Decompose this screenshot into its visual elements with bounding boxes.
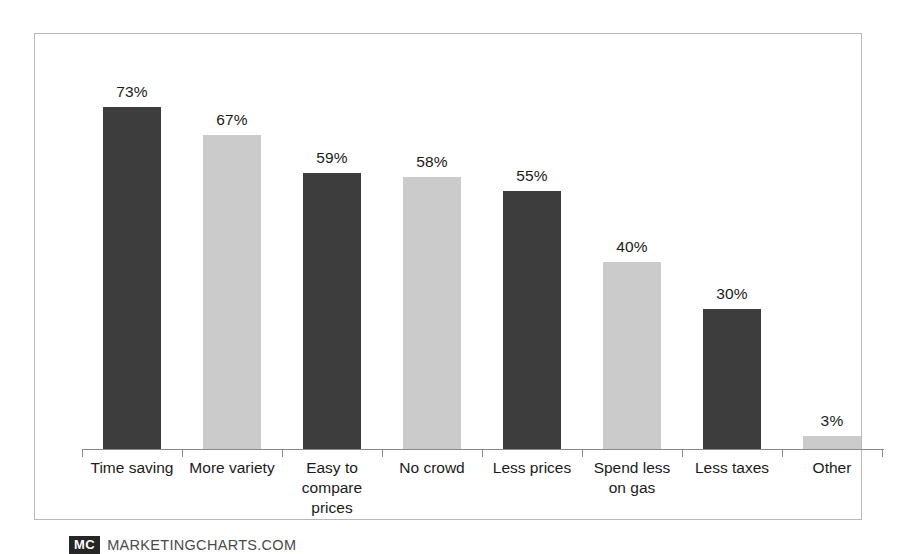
axis-tick [82, 450, 83, 457]
bar-value-label: 30% [682, 285, 782, 303]
bar-value-label: 73% [82, 83, 182, 101]
category-label-line: on gas [582, 478, 682, 498]
axis-tick [282, 450, 283, 457]
axis-tick [382, 450, 383, 457]
category-label-line: compare [282, 478, 382, 498]
axis-tick [482, 450, 483, 457]
bar-group [582, 74, 682, 450]
bar-value-label: 58% [382, 153, 482, 171]
category-label-line: Spend less [582, 458, 682, 478]
axis-tick [582, 450, 583, 457]
category-label: Less taxes [682, 458, 782, 478]
bar[interactable] [103, 107, 161, 450]
category-label-line: No crowd [382, 458, 482, 478]
chart-frame: 73%67%59%58%55%40%30%3% Time savingMore … [34, 33, 862, 520]
category-label-line: More variety [182, 458, 282, 478]
bar-group [382, 74, 482, 450]
bar-value-label: 40% [582, 238, 682, 256]
bar-group [682, 74, 782, 450]
category-label: Other [782, 458, 882, 478]
bar[interactable] [403, 177, 461, 450]
category-label: Time saving [82, 458, 182, 478]
category-label-line: Easy to [282, 458, 382, 478]
plot-area: 73%67%59%58%55%40%30%3% [82, 74, 882, 450]
bar-value-label: 3% [782, 412, 882, 430]
category-label: Easy tocompareprices [282, 458, 382, 518]
bar-group [282, 74, 382, 450]
marketingcharts-logo-icon: MC [69, 536, 100, 554]
bar[interactable] [503, 191, 561, 450]
x-axis-line [82, 449, 884, 450]
bar-group [782, 74, 882, 450]
category-label-row: Time savingMore varietyEasy tocomparepri… [82, 458, 882, 528]
bar[interactable] [203, 135, 261, 450]
category-label: Less prices [482, 458, 582, 478]
category-label-line: Time saving [82, 458, 182, 478]
category-label-line: Less prices [482, 458, 582, 478]
category-label-line: prices [282, 498, 382, 518]
category-label: Spend lesson gas [582, 458, 682, 498]
category-label: More variety [182, 458, 282, 478]
axis-tick [782, 450, 783, 457]
bar-value-label: 59% [282, 149, 382, 167]
axis-tick [182, 450, 183, 457]
category-label-line: Other [782, 458, 882, 478]
attribution: MC MARKETINGCHARTS.COM [69, 536, 296, 554]
bar-value-label: 55% [482, 167, 582, 185]
bar-group [482, 74, 582, 450]
bar-value-label: 67% [182, 111, 282, 129]
axis-tick [882, 450, 883, 457]
category-label-line: Less taxes [682, 458, 782, 478]
axis-tick [682, 450, 683, 457]
bar[interactable] [803, 436, 861, 450]
bar-group [82, 74, 182, 450]
bar[interactable] [303, 173, 361, 450]
bar-group [182, 74, 282, 450]
category-label: No crowd [382, 458, 482, 478]
attribution-site-text: MARKETINGCHARTS.COM [107, 537, 296, 553]
bar[interactable] [603, 262, 661, 450]
bar[interactable] [703, 309, 761, 450]
